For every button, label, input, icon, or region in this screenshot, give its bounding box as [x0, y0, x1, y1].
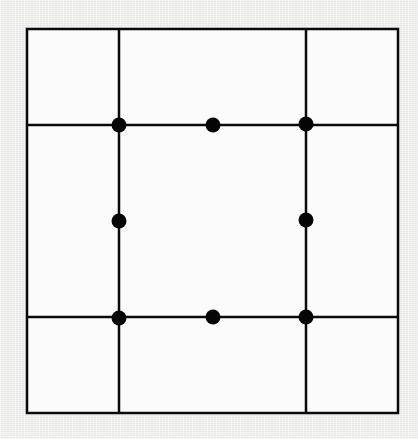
dot-inner-bottom-right	[299, 310, 314, 325]
dot-inner-mid-right	[299, 213, 314, 228]
dot-inner-mid-left	[112, 214, 127, 229]
dot-inner-top-left	[112, 118, 127, 133]
dot-inner-bottom-left	[112, 311, 127, 326]
dot-inner-top-mid	[206, 118, 221, 133]
grid-diagram	[0, 0, 418, 439]
outer-square	[27, 29, 398, 413]
dot-inner-top-right	[299, 117, 314, 132]
dot-inner-bottom-mid	[206, 310, 221, 325]
